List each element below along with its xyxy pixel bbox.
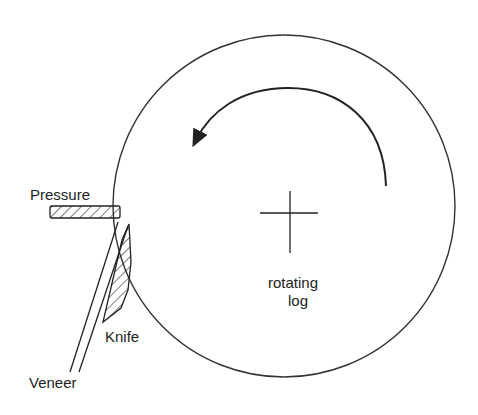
- pressure-bar: [50, 206, 120, 218]
- rotation-arrow-icon: [196, 88, 386, 186]
- pressure-label: Pressure: [30, 186, 90, 203]
- log-label-line2: log: [288, 292, 308, 309]
- log-circle: [113, 35, 455, 377]
- center-cross-icon: [260, 191, 318, 253]
- knife-label: Knife: [105, 328, 139, 345]
- veneer-label: Veneer: [29, 374, 77, 391]
- log-label-line1: rotating: [268, 274, 318, 291]
- veneer-lathe-diagram: Pressure Knife Veneer rotating log: [0, 0, 478, 415]
- knife-blade: [103, 224, 131, 322]
